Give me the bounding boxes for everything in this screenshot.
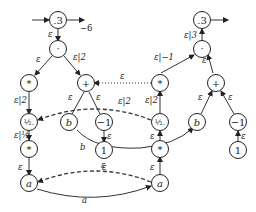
edge-label: ε|2 [145,95,158,106]
svg-text:1: 1 [101,145,107,156]
edge-label: ε [120,71,125,81]
edge-label: ε [241,131,246,141]
right-node-root: .3 [194,12,211,29]
svg-text:+: + [82,78,90,89]
left-node-star2: * [21,141,38,158]
right-edge-b-plus [201,91,212,114]
svg-text:½.: ½. [155,118,165,127]
right-edge-plus-dot [208,55,213,73]
edge-label: ε [36,54,41,64]
cross-edge-b-solid [77,128,193,148]
left-node-root: .3 [50,12,67,29]
right-node-one: 1 [230,142,247,159]
edge-label: ε [18,162,23,172]
left-node-one: 1 [96,142,113,159]
left-node-half: ½. [21,114,38,131]
svg-text:*: * [27,78,32,89]
left-node-dot: · [50,41,67,58]
left-node-b: b [61,114,78,131]
right-node-neg1: −1 [230,114,247,131]
left-node-neg1: −1 [96,114,113,131]
left-output-label: −6 [80,23,93,33]
edge-label: ε [48,29,53,39]
svg-text:b: b [194,117,200,128]
svg-text:.3: .3 [53,15,63,26]
right-node-b: b [189,114,206,131]
edge-label: ε [107,131,112,141]
edge-label: ε|−1 [154,52,174,63]
right-node-dot: · [194,41,211,58]
cross-edge-a-dashed [38,171,151,182]
svg-text:b: b [66,117,72,128]
left-node-plus: + [78,75,95,92]
edge-label: ε [150,162,155,172]
svg-text:+: + [212,78,220,89]
edge-label: ε [150,131,155,141]
svg-text:½.: ½. [24,118,34,127]
edge-label: ε [96,92,101,102]
svg-text:*: * [27,144,32,155]
edge-label: ε [102,162,107,172]
cross-edge-a-solid [37,186,151,197]
svg-text:−1: −1 [97,117,112,128]
right-node-a: a [152,175,169,192]
svg-text:a: a [26,178,32,189]
svg-text:*: * [158,144,163,155]
right-node-star1: * [152,75,169,92]
edge-label: ε [68,92,73,102]
edge-label: a [82,195,87,205]
right-node-star2: * [152,141,169,158]
weighted-transducer-diagram: −6 ε ε ε|2 ε|2 ε ε ε|½ ε ε ε ε|3 ε|−1 ε … [0,0,256,212]
cross-edge-half-dashed [38,109,151,120]
svg-text:·: · [56,43,59,54]
edge-label: ε|3 [184,30,197,41]
edge-label: ε|2 [73,52,86,63]
edge-label: ε|2 [14,95,27,106]
edge-label: ε [228,92,233,102]
svg-text:·: · [200,43,203,54]
edge-label: ε|½ [14,130,30,141]
left-node-star1: * [21,75,38,92]
edge-label: ε [198,92,203,102]
right-node-plus: + [208,75,225,92]
edge-label: b [80,142,85,152]
right-node-half: ½. [152,114,169,131]
left-node-a: a [21,175,38,192]
svg-text:−1: −1 [231,117,246,128]
svg-text:1: 1 [235,145,241,156]
edge-label: ε|2 [118,96,131,107]
svg-text:.3: .3 [197,15,207,26]
svg-text:*: * [158,78,163,89]
svg-text:a: a [157,178,163,189]
